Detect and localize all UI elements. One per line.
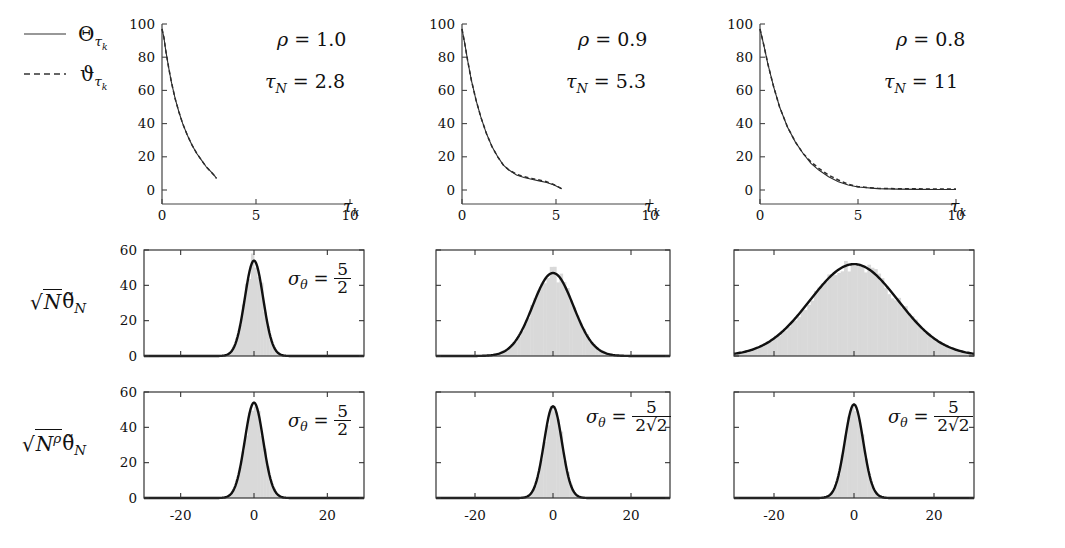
histogram-bar <box>550 267 554 356</box>
histogram-bar <box>547 278 551 356</box>
histogram-bar <box>891 298 895 356</box>
y-tick-label: 60 <box>438 82 455 98</box>
histogram-bar <box>874 269 878 356</box>
histogram-bar <box>877 274 881 356</box>
histogram-bar <box>867 265 871 356</box>
histogram-bar <box>811 301 815 356</box>
y-tick-label: 60 <box>120 384 137 400</box>
histogram-bar <box>251 253 254 356</box>
xaxis-label-tauk-col3: τk <box>950 196 966 219</box>
histogram-bar <box>861 265 865 356</box>
histogram-bar <box>894 300 898 356</box>
histogram-bars <box>524 406 583 498</box>
panel-hist-row2-col2 <box>420 240 680 370</box>
histogram-bar <box>807 305 811 356</box>
histogram-bar <box>254 407 257 498</box>
y-tick-label: 60 <box>120 242 137 258</box>
histogram-bar <box>897 298 901 356</box>
histogram-bar <box>847 271 851 356</box>
annotation-sigma-row3-col3: σθ = 52√2 <box>888 400 973 436</box>
histogram-bar <box>911 316 915 356</box>
y-tick-label: 40 <box>120 277 137 293</box>
annotation-sigma-row3-col2: σθ = 52√2 <box>586 400 671 436</box>
histogram-bar <box>553 267 557 356</box>
histogram-bar <box>904 306 908 356</box>
histogram-bar <box>540 283 544 356</box>
histogram-bars <box>223 253 285 356</box>
annotation-tauN-col3: τN = 11 <box>884 70 958 96</box>
y-tick-label: 100 <box>429 16 455 32</box>
histogram-bar <box>254 268 257 356</box>
y-tick-label: 40 <box>138 115 155 131</box>
series-theta <box>462 29 562 189</box>
histogram-bar <box>543 283 547 356</box>
chart-hist-sqrtN-rho-0.9 <box>420 240 680 370</box>
histogram-bar <box>831 275 835 356</box>
histogram-bar <box>245 436 248 498</box>
histogram-bar <box>921 330 925 356</box>
series-theta <box>162 29 217 178</box>
y-tick-label: 0 <box>446 182 455 198</box>
x-tick-label: 20 <box>622 507 639 523</box>
y-tick-label: 20 <box>120 454 137 470</box>
x-tick-label: -20 <box>464 507 486 523</box>
histogram-bar <box>907 313 911 356</box>
y-tick-label: 20 <box>120 312 137 328</box>
histogram-bars <box>223 407 285 498</box>
xaxis-label-tauk-col2: τk <box>644 196 660 219</box>
y-tick-label: 80 <box>438 49 455 65</box>
histogram-bar <box>917 325 921 356</box>
x-tick-label: -20 <box>763 507 785 523</box>
histogram-bar <box>854 411 858 498</box>
histogram-bar <box>761 346 765 356</box>
row-label-sqrtNrho-theta: √Nρθ̃N <box>22 428 86 458</box>
histogram-bars <box>488 267 618 356</box>
histogram-bar <box>784 330 788 356</box>
histogram-bar <box>901 308 905 356</box>
histogram-bar <box>881 278 885 356</box>
histogram-bar <box>824 282 828 356</box>
y-tick-label: 60 <box>138 82 155 98</box>
series-theta <box>760 29 956 190</box>
histogram-bar <box>914 319 918 356</box>
histogram-bar <box>804 310 808 356</box>
y-tick-label: 0 <box>128 490 137 506</box>
histogram-bar <box>887 294 891 356</box>
histogram-bar <box>851 263 855 356</box>
x-tick-label: 0 <box>158 207 167 223</box>
y-tick-label: 0 <box>146 182 155 198</box>
histogram-bar <box>791 322 795 356</box>
x-tick-label: 20 <box>925 507 942 523</box>
histogram-bar <box>781 331 785 356</box>
histogram-bar <box>248 279 251 356</box>
annotation-sigma-row2-col1: σθ = 52 <box>288 262 351 298</box>
x-tick-label: 0 <box>850 507 859 523</box>
y-tick-label: 0 <box>128 348 137 364</box>
histogram-bar <box>547 425 551 498</box>
histogram-bar <box>821 284 825 356</box>
x-tick-label: 5 <box>854 207 863 223</box>
series-vartheta <box>462 29 562 189</box>
histogram-bar <box>854 266 858 356</box>
x-tick-label: 0 <box>250 507 259 523</box>
histogram-bar <box>814 291 818 356</box>
histogram-bar <box>524 324 528 356</box>
histogram-bar <box>550 406 554 498</box>
histogram-bars <box>824 407 884 498</box>
histogram-bar <box>563 282 567 356</box>
histogram-bar <box>569 301 573 356</box>
histogram-bar <box>560 274 564 356</box>
histogram-bar <box>787 327 791 356</box>
chart-hist-sqrtN-rho-0.8 <box>718 240 986 370</box>
y-tick-label: 20 <box>438 148 455 164</box>
histogram-bar <box>827 274 831 356</box>
annotation-tauN-col1: τN = 2.8 <box>265 70 345 96</box>
histogram-bar <box>884 288 888 356</box>
histogram-bar <box>817 288 821 356</box>
legend-label-theta: Θτk <box>78 22 108 52</box>
panel-hist-row2-col3 <box>718 240 986 370</box>
x-tick-label: 0 <box>458 207 467 223</box>
y-tick-label: 0 <box>744 182 753 198</box>
histogram-bar <box>521 331 525 356</box>
y-tick-label: 40 <box>736 115 753 131</box>
